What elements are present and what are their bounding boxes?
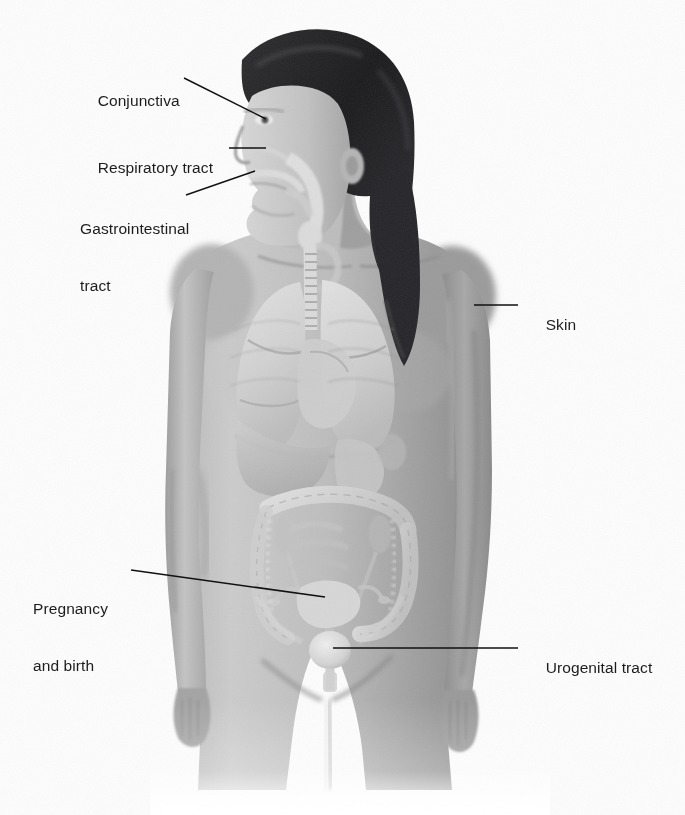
leader-line-pregnancy-and-birth [131,570,325,597]
label-urogenital-tract: Urogenital tract [528,639,652,696]
label-gastrointestinal-tract-line-2: tract [80,276,189,295]
label-pregnancy-and-birth: Pregnancy and birth [33,561,108,713]
anatomy-figure: Conjunctiva Respiratory tract Gastrointe… [0,0,685,815]
label-pregnancy-and-birth-line-2: and birth [33,656,108,675]
label-pregnancy-and-birth-line-1: Pregnancy [33,599,108,618]
leader-line-conjunctiva [184,78,266,119]
label-respiratory-tract-text: Respiratory tract [98,159,213,176]
label-gastrointestinal-tract-line-1: Gastrointestinal [80,219,189,238]
label-conjunctiva: Conjunctiva [80,72,180,129]
label-gastrointestinal-tract: Gastrointestinal tract [80,181,189,333]
label-conjunctiva-text: Conjunctiva [98,92,180,109]
label-skin: Skin [528,296,576,353]
label-skin-text: Skin [546,316,577,333]
label-urogenital-tract-text: Urogenital tract [546,659,653,676]
